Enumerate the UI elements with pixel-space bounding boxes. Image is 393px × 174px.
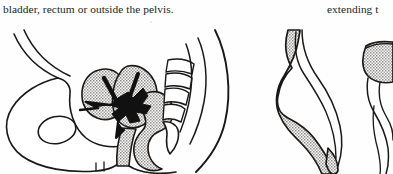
sacral-contour-outer <box>190 38 206 144</box>
left-column-text: bladder, rectum or outside the pelvis. <box>3 2 174 16</box>
secondary-stem-right <box>379 82 393 140</box>
detail-diagram <box>262 28 393 174</box>
iliac-crest-line <box>14 34 58 78</box>
sacrum <box>163 59 194 122</box>
secondary-stem-left <box>367 78 388 174</box>
text-layer: bladder, rectum or outside the pelvis. e… <box>0 0 393 30</box>
sagittal-pelvis-diagram <box>0 26 240 174</box>
scan-speckle <box>150 21 152 23</box>
right-column-text: extending t <box>327 2 378 16</box>
coccyx <box>163 122 179 154</box>
iliac-inner-line <box>24 30 70 76</box>
body-outline <box>196 30 228 172</box>
primary-shaded-structure <box>277 30 332 174</box>
